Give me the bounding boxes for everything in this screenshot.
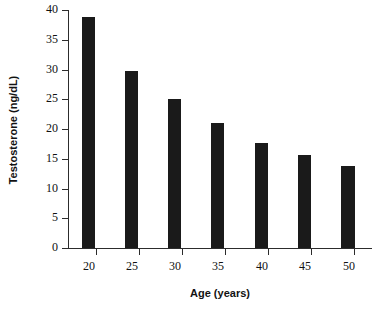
y-tick-label-30: 30 (46, 62, 58, 77)
y-tick-label-35: 35 (46, 32, 58, 47)
x-tick-label-30: 30 (169, 259, 181, 274)
x-tick-label-50: 50 (343, 259, 355, 274)
y-axis-title-text: Testosterone (ng/dL) (7, 76, 19, 185)
y-tick-label-10: 10 (46, 181, 58, 196)
y-tick-label-0: 0 (52, 240, 58, 255)
bar-series (68, 10, 372, 248)
x-tick-label-35: 35 (212, 259, 224, 274)
y-tick-label-40: 40 (46, 2, 58, 17)
plot-area: 40 35 30 25 20 15 10 5 0 (68, 10, 372, 248)
y-axis-title: Testosterone (ng/dL) (0, 0, 26, 260)
x-tick-label-20: 20 (83, 259, 95, 274)
y-tick-label-20: 20 (46, 121, 58, 136)
y-tick-label-25: 25 (46, 91, 58, 106)
testosterone-vs-age-bar-chart: Testosterone (ng/dL) 40 35 30 25 20 15 1… (0, 0, 377, 311)
x-tick-3 (225, 249, 226, 255)
bar-age-20 (82, 17, 95, 248)
x-tick-label-45: 45 (299, 259, 311, 274)
x-tick-5 (311, 249, 312, 255)
bar-age-40 (255, 143, 268, 248)
x-axis-line (68, 248, 372, 249)
x-tick-label-40: 40 (256, 259, 268, 274)
y-tick-0: 0 (62, 248, 68, 249)
bar-age-35 (211, 123, 224, 248)
bar-age-50 (341, 166, 355, 248)
x-tick-6 (354, 249, 355, 255)
x-tick-0 (96, 249, 97, 255)
y-tick-label-5: 5 (52, 210, 58, 225)
x-tick-4 (268, 249, 269, 255)
bar-age-25 (125, 71, 138, 248)
x-tick-1 (139, 249, 140, 255)
y-tick-label-15: 15 (46, 151, 58, 166)
bar-age-30 (168, 99, 181, 248)
bar-age-45 (298, 155, 311, 248)
x-tick-2 (182, 249, 183, 255)
x-axis-title: Age (years) (68, 287, 372, 299)
x-tick-label-25: 25 (126, 259, 138, 274)
